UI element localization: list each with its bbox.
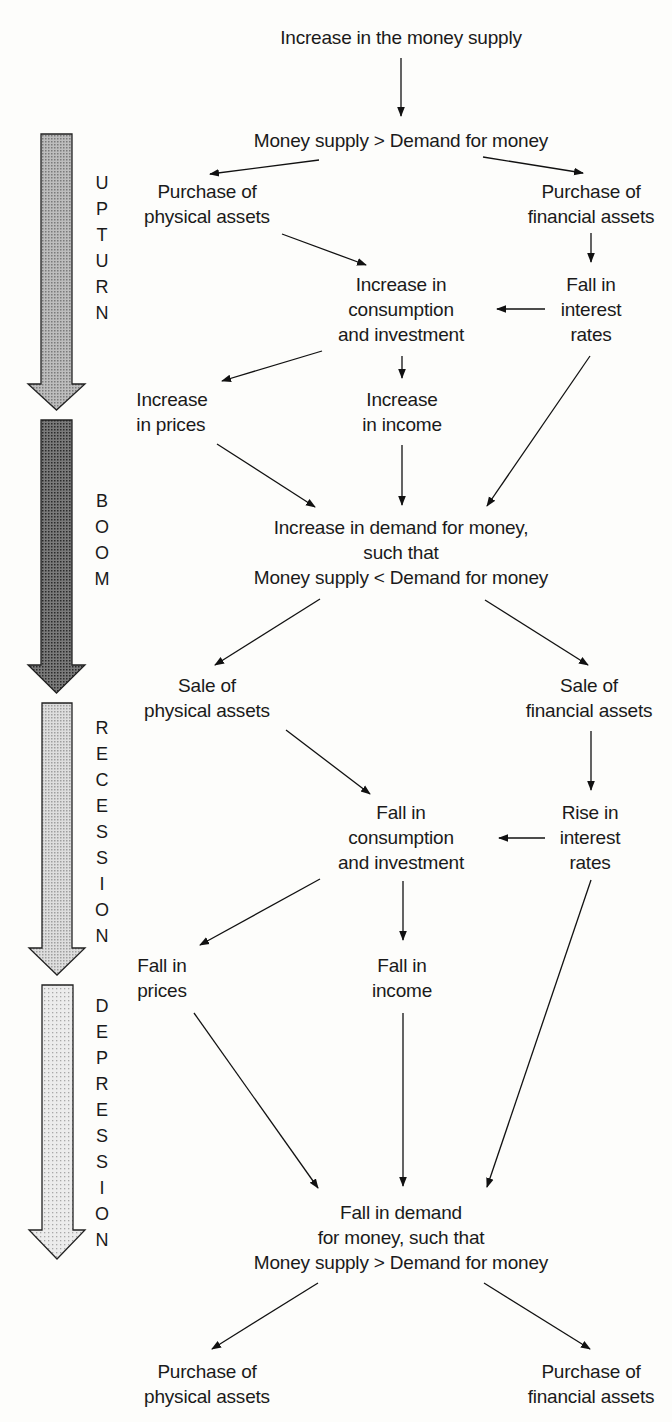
node-fall-income: Fall inincome <box>372 953 432 1003</box>
node-purchase-financial-assets-2: Purchase offinancial assets <box>528 1359 655 1409</box>
node-fall-consumption-investment: Fall inconsumptionand investment <box>338 800 464 875</box>
phase-label-boom: BOOM <box>92 488 112 592</box>
node-purchase-financial-assets-1: Purchase offinancial assets <box>528 179 655 229</box>
node-purchase-physical-assets-2: Purchase ofphysical assets <box>144 1359 270 1409</box>
phase-label-recession: RECESSION <box>92 715 112 949</box>
node-increase-income: Increasein income <box>362 387 442 437</box>
phase-arrow-recession <box>29 703 85 975</box>
phase-arrow-boom <box>28 420 85 693</box>
node-fall-interest-rates: Fall ininterestrates <box>561 272 622 347</box>
node-money-supply-exceeds-demand-1: Money supply > Demand for money <box>254 128 548 153</box>
node-increase-money-supply: Increase in the money supply <box>280 25 522 50</box>
node-purchase-physical-assets-1: Purchase ofphysical assets <box>144 179 270 229</box>
phase-arrow-upturn <box>28 134 85 410</box>
phase-arrow-depression <box>29 985 85 1259</box>
phase-label-depression: DEPRESSION <box>92 993 112 1253</box>
node-fall-demand-for-money: Fall in demandfor money, such thatMoney … <box>254 1200 548 1275</box>
node-sale-financial-assets: Sale offinancial assets <box>526 673 653 723</box>
node-rise-interest-rates: Rise ininterestrates <box>560 800 621 875</box>
phase-label-upturn: UPTURN <box>92 170 112 326</box>
node-fall-prices: Fall inprices <box>137 953 186 1003</box>
node-increase-prices: Increasein prices <box>136 387 207 437</box>
node-increase-demand-for-money: Increase in demand for money,such thatMo… <box>254 515 548 590</box>
node-sale-physical-assets: Sale ofphysical assets <box>144 673 270 723</box>
node-increase-consumption-investment: Increase inconsumptionand investment <box>338 272 464 347</box>
